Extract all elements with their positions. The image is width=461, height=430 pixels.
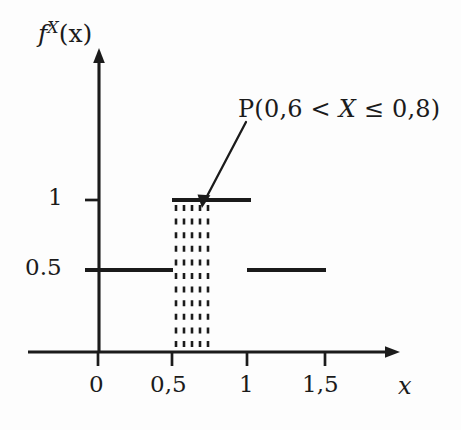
y-tick-label-1: 1	[48, 186, 63, 209]
x-tick-label-1: 1	[239, 373, 254, 396]
annotation-leader-line	[205, 122, 246, 200]
probability-annotation-variable: X	[339, 95, 356, 123]
shaded-probability-region	[176, 205, 208, 352]
x-axis-label: x	[398, 374, 412, 398]
annotation-leader-group	[198, 122, 247, 208]
x-tick-label-0: 0	[89, 373, 104, 396]
probability-annotation: P(0,6 < X ≤ 0,8)	[238, 97, 440, 121]
y-tick-marks	[85, 200, 99, 270]
y-axis-label-base: f	[38, 19, 47, 48]
x-tick-marks	[98, 352, 325, 366]
y-axis-label-superscript: X	[47, 18, 58, 37]
density-function-figure: fX(x) x 1 0.5 0 0,5 1 1,5 P(0,6 < X ≤ 0,…	[0, 0, 461, 430]
y-axis-label: fX(x)	[38, 20, 92, 46]
probability-annotation-suffix: ≤ 0,8)	[356, 95, 440, 123]
plot-canvas	[0, 0, 461, 430]
x-tick-label-0-5: 0,5	[150, 373, 187, 396]
y-axis-arrowhead	[93, 48, 105, 63]
y-tick-label-0-5: 0.5	[25, 256, 62, 279]
density-curve-group	[85, 200, 326, 270]
y-axis-label-argument: (x)	[59, 19, 93, 48]
x-axis-arrowhead	[385, 346, 400, 358]
x-tick-label-1-5: 1,5	[302, 373, 339, 396]
probability-annotation-prefix: P(0,6 <	[238, 95, 339, 123]
